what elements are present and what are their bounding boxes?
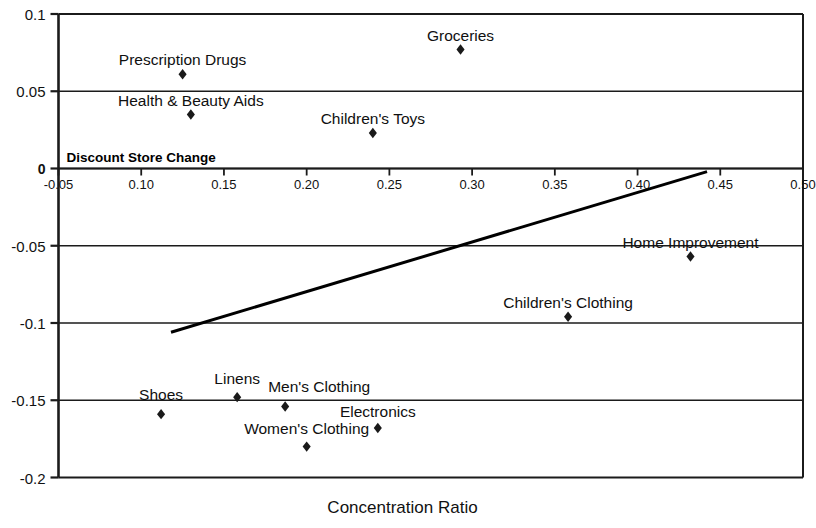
- data-marker: [374, 423, 382, 433]
- x-axis-tick-label: 0.20: [294, 178, 319, 191]
- data-marker: [179, 69, 187, 79]
- data-point-label: Home Improvement: [622, 235, 758, 251]
- data-marker: [303, 441, 311, 451]
- data-marker: [369, 128, 377, 138]
- data-point-label: Groceries: [427, 28, 494, 44]
- x-axis-tick-label: 0.35: [542, 178, 567, 191]
- data-point-label: Electronics: [340, 404, 416, 420]
- data-point-label: Women's Clothing: [244, 421, 369, 437]
- y-axis-tick-label: -0.1: [0, 316, 46, 331]
- data-marker: [187, 109, 195, 119]
- data-marker: [686, 251, 694, 261]
- x-axis-tick-label: 0.40: [625, 178, 650, 191]
- y-axis-tick-label: -0.05: [0, 238, 46, 253]
- data-point-label: Health & Beauty Aids: [118, 93, 264, 109]
- data-point-label: Shoes: [139, 387, 183, 403]
- series-annotation-label: Discount Store Change: [67, 151, 216, 165]
- x-axis-tick-label: 0.50: [790, 178, 815, 191]
- y-axis-tick-label: 0: [0, 162, 46, 176]
- data-point-label: Men's Clothing: [268, 379, 370, 395]
- y-axis-tick-label: 0.05: [0, 84, 46, 99]
- data-marker: [281, 401, 289, 411]
- data-point-label: Linens: [214, 371, 260, 387]
- y-axis-tick-label: -0.15: [0, 393, 46, 408]
- y-axis-tick-label: 0.1: [0, 7, 46, 22]
- x-axis-tick-label: -0.05: [44, 178, 74, 191]
- data-marker: [564, 312, 572, 322]
- x-axis-tick-label: 0.10: [129, 178, 154, 191]
- x-tick-marks: [59, 169, 804, 176]
- data-point-label: Children's Clothing: [503, 295, 633, 311]
- x-axis-tick-label: 0.45: [708, 178, 733, 191]
- x-axis-title: Concentration Ratio: [0, 498, 805, 518]
- y-axis-tick-label: -0.2: [0, 470, 46, 485]
- data-marker: [456, 44, 464, 54]
- x-axis-tick-label: 0.30: [459, 178, 484, 191]
- data-point-label: Children's Toys: [321, 111, 425, 127]
- x-axis-tick-label: 0.15: [211, 178, 236, 191]
- data-marker: [157, 409, 165, 419]
- data-point-label: Prescription Drugs: [119, 52, 247, 68]
- x-axis-tick-label: 0.25: [377, 178, 402, 191]
